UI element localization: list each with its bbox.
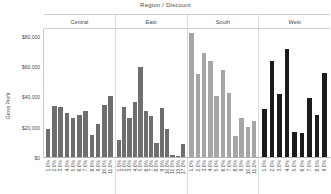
bar[interactable] — [138, 67, 142, 157]
bar[interactable] — [202, 53, 206, 157]
chart-title: Region / Discount — [0, 2, 331, 8]
x-tick-label: 5.0% — [71, 160, 75, 171]
bar[interactable] — [160, 108, 164, 157]
bar[interactable] — [292, 132, 296, 157]
bar[interactable] — [102, 105, 106, 157]
bar[interactable] — [176, 156, 180, 157]
x-tick-label: 9.0% — [160, 160, 164, 171]
y-tick-label: $20,000 — [22, 125, 40, 131]
panel-east — [116, 29, 188, 157]
x-tick-label: 15.0% — [176, 160, 180, 174]
x-tick-label: 7.0% — [307, 160, 311, 171]
panel-west — [259, 29, 330, 157]
x-tick-group-west: 1.0%2.0%3.0%4.0%5.0%6.0%7.0%8.0%9.0% — [259, 159, 330, 194]
bar[interactable] — [208, 61, 212, 157]
panel-group — [44, 29, 330, 157]
y-tick-label: $60,000 — [22, 64, 40, 70]
bar-series — [116, 29, 187, 157]
bar[interactable] — [52, 106, 56, 157]
bar[interactable] — [83, 111, 87, 157]
x-tick-group-south: 1.0%2.0%3.0%4.0%5.0%6.0%7.0%8.0%9.0%10.0… — [188, 159, 260, 194]
x-tick-label: 10.0% — [246, 160, 250, 174]
bar[interactable] — [246, 127, 250, 157]
x-tick-label: 9.0% — [322, 160, 326, 171]
bar[interactable] — [307, 98, 311, 157]
x-tick-label: 6.0% — [77, 160, 81, 171]
y-tick-label: $40,000 — [22, 94, 40, 100]
panel-header-south: South — [188, 15, 260, 28]
x-tick-label: 8.0% — [233, 160, 237, 171]
bar[interactable] — [221, 70, 225, 157]
bar[interactable] — [122, 107, 126, 157]
x-tick-label: 4.0% — [65, 160, 69, 171]
bar[interactable] — [170, 155, 174, 157]
x-axis-labels: 1.0%2.0%3.0%4.0%5.0%6.0%7.0%8.0%9.0%10.0… — [44, 159, 330, 194]
bar[interactable] — [181, 144, 185, 157]
x-tick-label: 2.0% — [52, 160, 56, 171]
bar[interactable] — [214, 96, 218, 157]
panel-header-row: Central East South West — [44, 14, 330, 29]
x-tick-label: 3.0% — [127, 160, 131, 171]
bar[interactable] — [270, 61, 274, 157]
bar[interactable] — [127, 118, 131, 157]
bar[interactable] — [96, 124, 100, 157]
bar[interactable] — [277, 94, 281, 157]
x-tick-label: 2.0% — [270, 160, 274, 171]
bar[interactable] — [227, 93, 231, 158]
bar[interactable] — [65, 113, 69, 157]
y-tick-label: $80,000 — [22, 34, 40, 40]
bar[interactable] — [154, 143, 158, 157]
x-tick-label: 8.0% — [315, 160, 319, 171]
bar[interactable] — [300, 133, 304, 157]
panel-header-east: East — [116, 15, 188, 28]
bar[interactable] — [108, 96, 112, 157]
bar[interactable] — [71, 118, 75, 157]
plot-area — [44, 29, 330, 158]
bar[interactable] — [315, 115, 319, 157]
bar[interactable] — [77, 115, 81, 157]
bar[interactable] — [233, 136, 237, 157]
bar[interactable] — [252, 121, 256, 157]
y-axis: Gross Profit $0$20,000$40,000$60,000$80,… — [0, 29, 44, 158]
chart-container: Region / Discount Central East South Wes… — [0, 0, 331, 194]
x-tick-label: 11.0% — [170, 160, 174, 174]
bar-series — [44, 29, 115, 157]
x-tick-label: 7.0% — [227, 160, 231, 171]
x-tick-label: 10.0% — [102, 160, 106, 174]
x-tick-label: 11.0% — [108, 160, 112, 174]
x-tick-label: 4.0% — [285, 160, 289, 171]
x-tick-label: 4.0% — [208, 160, 212, 171]
bar[interactable] — [285, 49, 289, 158]
x-tick-label: 9.0% — [96, 160, 100, 171]
x-tick-group-central: 1.0%2.0%3.0%4.0%5.0%6.0%7.0%8.0%9.0%10.0… — [44, 159, 116, 194]
bar[interactable] — [144, 111, 148, 157]
bar[interactable] — [165, 129, 169, 157]
x-tick-label: 8.0% — [154, 160, 158, 171]
bar[interactable] — [117, 140, 121, 157]
bar[interactable] — [46, 129, 50, 157]
x-tick-group-east: 1.0%2.0%3.0%4.0%5.0%6.0%7.0%8.0%9.0%10.0… — [116, 159, 188, 194]
bar[interactable] — [58, 107, 62, 157]
bar[interactable] — [133, 102, 137, 157]
x-tick-label: 5.0% — [138, 160, 142, 171]
x-tick-label: 2.0% — [196, 160, 200, 171]
bar[interactable] — [196, 74, 200, 157]
panel-header-west: West — [259, 15, 330, 28]
bar[interactable] — [149, 116, 153, 157]
y-tick-label: $0 — [34, 155, 40, 161]
bar[interactable] — [239, 118, 243, 157]
bar[interactable] — [90, 135, 94, 157]
panel-south — [188, 29, 260, 157]
bar-series — [188, 29, 259, 157]
x-tick-label: 6.0% — [144, 160, 148, 171]
bar[interactable] — [262, 109, 266, 157]
x-tick-label: 5.0% — [214, 160, 218, 171]
x-tick-label: 5.0% — [292, 160, 296, 171]
bar[interactable] — [189, 33, 193, 157]
x-tick-label: 3.0% — [202, 160, 206, 171]
x-tick-label: 3.0% — [58, 160, 62, 171]
bar[interactable] — [322, 73, 326, 157]
x-tick-label: 11.0% — [252, 160, 256, 174]
x-tick-label: 9.0% — [239, 160, 243, 171]
panel-central — [44, 29, 116, 157]
